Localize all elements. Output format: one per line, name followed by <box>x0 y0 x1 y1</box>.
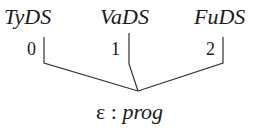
root-separator: : <box>111 99 117 124</box>
root-symbol: ε <box>96 99 105 124</box>
root-node: ε : prog <box>96 101 163 123</box>
edge-0 <box>44 37 138 91</box>
root-type: prog <box>122 99 163 124</box>
edge-1 <box>129 33 138 91</box>
edge-2 <box>138 37 223 91</box>
